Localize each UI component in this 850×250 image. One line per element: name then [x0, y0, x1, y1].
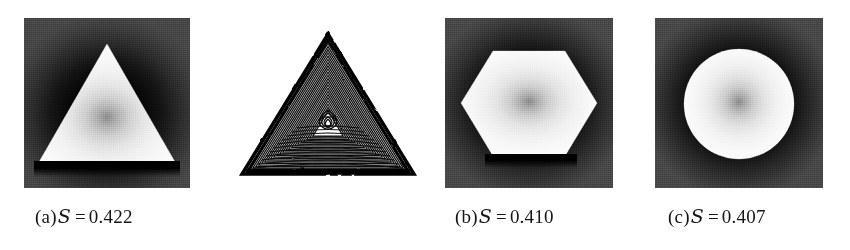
caption-c-symbol: S [690, 205, 705, 227]
caption-b-value: 0.410 [510, 206, 554, 227]
caption-a-symbol: S [57, 205, 72, 227]
caption-a-relation: = [72, 206, 89, 227]
caption-a-label: (a) [35, 206, 57, 227]
caption-a-value: 0.422 [89, 206, 133, 227]
panel-a-triangle-heatmap [24, 18, 190, 188]
panel-c-circle-heatmap [655, 18, 823, 188]
contour-lines [232, 26, 424, 190]
caption-c-value: 0.407 [722, 206, 766, 227]
panel-triangle-contour [232, 26, 424, 190]
caption-b-symbol: S [478, 205, 493, 227]
caption-b-relation: = [493, 206, 510, 227]
figure-container: (a)S=0.422 (b)S=0.410 (c)S=0.407 [0, 0, 850, 250]
caption-b-label: (b) [455, 206, 478, 227]
caption-c-relation: = [705, 206, 722, 227]
panel-c-circle-shape [655, 18, 823, 188]
caption-panel-a: (a)S=0.422 [35, 207, 133, 226]
caption-c-label: (c) [668, 206, 690, 227]
caption-panel-b: (b)S=0.410 [455, 207, 554, 226]
panel-b-hexagon-shape [445, 18, 613, 188]
caption-panel-c: (c)S=0.407 [668, 207, 766, 226]
panel-b-hexagon-heatmap [445, 18, 613, 188]
panel-a-triangle-shape [24, 18, 190, 188]
